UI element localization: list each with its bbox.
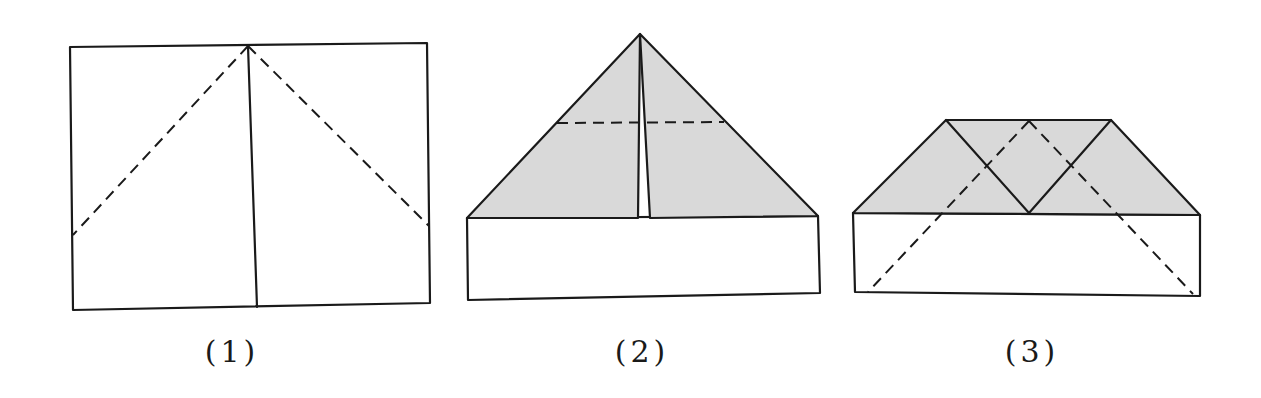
step-2-left-flap bbox=[467, 34, 640, 218]
step-3-trapezoid bbox=[853, 120, 1200, 215]
step-3-label: (3) bbox=[1005, 334, 1060, 369]
step-2-right-flap bbox=[640, 34, 818, 218]
step-3-figure bbox=[853, 120, 1200, 296]
step-2-label: (2) bbox=[615, 334, 670, 369]
step-2-bottom-band bbox=[467, 216, 820, 300]
step-3-bottom-band bbox=[853, 213, 1200, 296]
step-2-figure bbox=[467, 34, 820, 300]
step-1-figure bbox=[70, 43, 430, 310]
step-1-label: (1) bbox=[205, 334, 260, 369]
